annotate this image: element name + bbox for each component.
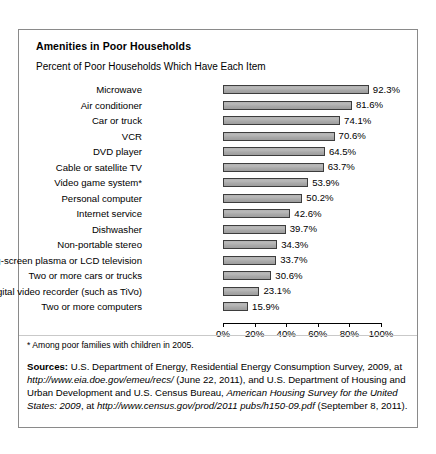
x-axis-tick-label: 40%	[277, 328, 296, 339]
sources-url-eia: http://www.eia.doe.gov/emeu/recs/	[27, 374, 174, 385]
sources-text-1: U.S. Department of Energy, Residential E…	[68, 361, 402, 372]
chart-figure-frame: Amenities in Poor Households Percent of …	[18, 29, 418, 428]
bar	[223, 101, 352, 110]
bar-value-label: 15.9%	[252, 301, 279, 312]
bar-chart-plot-area: Microwave92.3%Air conditioner81.6%Car or…	[19, 84, 417, 332]
x-axis-tick	[318, 323, 319, 327]
sources-url-census: http://www.census.gov/prod/2011 pubs/h15…	[97, 400, 315, 411]
bar-category-label: Non-portable stereo	[57, 239, 142, 250]
sources-text-3: , at	[81, 400, 97, 411]
bar-track	[223, 302, 381, 311]
bar-row: Internet service42.6%	[19, 208, 417, 224]
bar-category-label: Cable or satellite TV	[56, 162, 142, 173]
bar-row: Two or more computers15.9%	[19, 301, 417, 317]
bar-row: Non-portable stereo34.3%	[19, 239, 417, 255]
bar-row: DVD player64.5%	[19, 146, 417, 162]
bar	[223, 302, 248, 311]
x-axis-tick-label: 80%	[340, 328, 359, 339]
bar	[223, 116, 340, 125]
bar	[223, 178, 308, 187]
bar-category-label: Internet service	[76, 208, 142, 219]
bar-row: Dishwasher39.7%	[19, 224, 417, 240]
sources-text-4: (September 8, 2011).	[315, 400, 408, 411]
bar-value-label: 70.6%	[339, 130, 366, 141]
chart-subtitle: Percent of Poor Households Which Have Ea…	[36, 61, 266, 72]
bar	[223, 163, 324, 172]
bar-value-label: 39.7%	[290, 223, 317, 234]
bar-value-label: 74.1%	[344, 115, 371, 126]
bar-category-label: Digital video recorder (such as TiVo)	[0, 286, 142, 297]
bar-category-label: Personal computer	[61, 193, 142, 204]
x-axis-tick-label: 20%	[245, 328, 264, 339]
bar-category-label: Dishwasher	[92, 224, 142, 235]
x-axis-tick	[255, 323, 256, 327]
bar	[223, 209, 290, 218]
bar-track	[223, 178, 381, 187]
bar-category-label: Car or truck	[92, 115, 142, 126]
sources-label: Sources:	[27, 361, 68, 372]
bar-track	[223, 163, 381, 172]
bar	[223, 271, 271, 280]
bar-row: Personal computer50.2%	[19, 193, 417, 209]
bar-value-label: 50.2%	[306, 192, 333, 203]
bar-category-label: Video game system*	[54, 177, 142, 188]
bar-category-label: Two or more cars or trucks	[28, 270, 142, 281]
x-axis-line	[223, 323, 381, 324]
bar	[223, 85, 369, 94]
bar-row: Video game system*53.9%	[19, 177, 417, 193]
bar-value-label: 23.1%	[263, 285, 290, 296]
chart-sources: Sources: U.S. Department of Energy, Resi…	[27, 360, 411, 412]
bar-track	[223, 85, 381, 94]
x-axis-tick	[381, 323, 382, 327]
bar-category-label: Air conditioner	[81, 100, 142, 111]
bar-value-label: 42.6%	[294, 208, 321, 219]
bar-row: Air conditioner81.6%	[19, 100, 417, 116]
x-axis-tick	[286, 323, 287, 327]
x-axis-tick	[223, 323, 224, 327]
bar-value-label: 81.6%	[356, 99, 383, 110]
bar	[223, 147, 325, 156]
notes-divider	[19, 335, 417, 336]
x-axis-tick-label: 100%	[369, 328, 394, 339]
bar-row: Two or more cars or trucks30.6%	[19, 270, 417, 286]
bar-row: Cable or satellite TV63.7%	[19, 162, 417, 178]
bar-track	[223, 194, 381, 203]
bar-row: Big-screen plasma or LCD television33.7%	[19, 255, 417, 271]
bar-category-label: VCR	[122, 131, 142, 142]
bar-row: Digital video recorder (such as TiVo)23.…	[19, 286, 417, 302]
chart-title: Amenities in Poor Households	[36, 40, 191, 52]
bar-value-label: 92.3%	[373, 84, 400, 95]
x-axis-tick-label: 60%	[308, 328, 327, 339]
bar-row: Car or truck74.1%	[19, 115, 417, 131]
bar-category-label: Two or more computers	[41, 301, 142, 312]
bar-value-label: 63.7%	[328, 161, 355, 172]
bar-category-label: DVD player	[93, 146, 142, 157]
bar	[223, 287, 259, 296]
bar-row: VCR70.6%	[19, 131, 417, 147]
bar-value-label: 30.6%	[275, 270, 302, 281]
bar-value-label: 64.5%	[329, 146, 356, 157]
bar	[223, 240, 277, 249]
bar-track	[223, 287, 381, 296]
bar	[223, 256, 276, 265]
bar-track	[223, 147, 381, 156]
bar-category-label: Microwave	[96, 84, 142, 95]
bar-value-label: 33.7%	[280, 254, 307, 265]
bar-category-label: Big-screen plasma or LCD television	[0, 255, 142, 266]
bar	[223, 194, 302, 203]
bar-value-label: 53.9%	[312, 177, 339, 188]
chart-footnote: * Among poor families with children in 2…	[27, 340, 409, 351]
bar-value-label: 34.3%	[281, 239, 308, 250]
bar	[223, 132, 335, 141]
bar	[223, 225, 286, 234]
bar-row: Microwave92.3%	[19, 84, 417, 100]
x-axis-tick-label: 0%	[216, 328, 230, 339]
x-axis-tick	[349, 323, 350, 327]
